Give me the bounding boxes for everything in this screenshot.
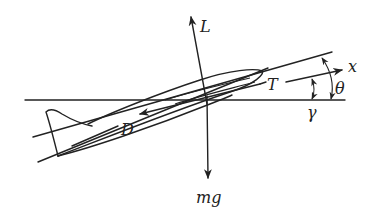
- gamma-label: γ: [307, 103, 317, 122]
- weight-label: mg: [196, 188, 221, 207]
- aircraft-force-diagram: L mg x T D γ θ: [0, 0, 382, 215]
- x-axis-arrow: [286, 70, 342, 82]
- theta-angle-arc: [322, 58, 332, 99]
- gamma-angle-arc: [312, 79, 314, 99]
- thrust-label: T: [267, 75, 279, 94]
- lift-label: L: [199, 17, 211, 36]
- x-axis-label: x: [348, 57, 357, 76]
- weight-arrow: [207, 96, 208, 178]
- theta-label: θ: [335, 79, 345, 98]
- thrust-line-connector: [260, 82, 266, 84]
- drag-arrow: [140, 84, 260, 114]
- drag-label: D: [120, 120, 134, 139]
